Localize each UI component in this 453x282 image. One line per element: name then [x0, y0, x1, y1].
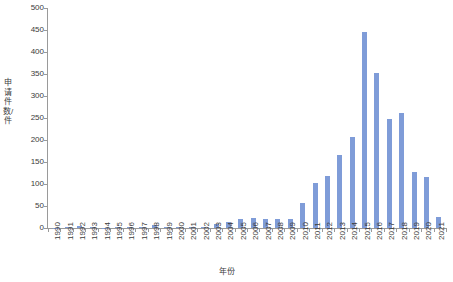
- bar[interactable]: [337, 155, 342, 228]
- x-label-slot: 1994: [98, 230, 110, 266]
- x-label-slot: 2000: [172, 230, 184, 266]
- x-label-slot: 2012: [320, 230, 332, 266]
- y-tick-label: 450: [14, 26, 44, 34]
- bar-slot: [49, 8, 61, 228]
- bar[interactable]: [399, 113, 404, 228]
- bar-slot: [160, 8, 172, 228]
- bar-slot: [272, 8, 284, 228]
- x-label-slot: 2014: [345, 230, 357, 266]
- y-tick-label: 300: [14, 92, 44, 100]
- x-label-slot: 1997: [135, 230, 147, 266]
- bar[interactable]: [313, 183, 318, 228]
- x-axis-title: 年份: [0, 265, 453, 276]
- bar-slot: [284, 8, 296, 228]
- y-axis-tick-mark: [44, 162, 48, 163]
- x-axis-tick-mark: [446, 228, 447, 232]
- bar-slot: [309, 8, 321, 228]
- x-label-slot: 1999: [159, 230, 171, 266]
- x-label-slot: 2004: [221, 230, 233, 266]
- bar-slot: [396, 8, 408, 228]
- y-tick-label: 100: [14, 180, 44, 188]
- bar-slot: [86, 8, 98, 228]
- x-label-slot: 2021: [432, 230, 444, 266]
- bar-slot: [334, 8, 346, 228]
- y-tick-label: 150: [14, 158, 44, 166]
- x-label-slot: 2006: [246, 230, 258, 266]
- bar[interactable]: [350, 137, 355, 228]
- y-tick-label: 0: [14, 224, 44, 232]
- bar-slot: [185, 8, 197, 228]
- x-label-slot: 2005: [234, 230, 246, 266]
- y-axis-tick-mark: [44, 52, 48, 53]
- x-label-slot: 2011: [308, 230, 320, 266]
- y-tick-label: 200: [14, 136, 44, 144]
- bar-slot: [321, 8, 333, 228]
- x-label-slot: 2015: [357, 230, 369, 266]
- y-axis-tick-labels: 050100150200250300350400450500: [14, 0, 44, 236]
- bar-slot: [61, 8, 73, 228]
- bar-slot: [371, 8, 383, 228]
- y-axis-tick-mark: [44, 206, 48, 207]
- bar-slot: [235, 8, 247, 228]
- y-axis-tick-mark: [44, 30, 48, 31]
- y-axis-tick-mark: [44, 118, 48, 119]
- x-label-slot: 2010: [296, 230, 308, 266]
- bar[interactable]: [362, 32, 367, 228]
- bar-slot: [297, 8, 309, 228]
- y-axis-tick-mark: [44, 184, 48, 185]
- bar-slot: [259, 8, 271, 228]
- bar[interactable]: [412, 172, 417, 228]
- bar[interactable]: [374, 73, 379, 228]
- x-label-slot: 1991: [60, 230, 72, 266]
- x-label-slot: 1992: [73, 230, 85, 266]
- bar-slot: [222, 8, 234, 228]
- x-label-slot: 2017: [382, 230, 394, 266]
- bar-slot: [173, 8, 185, 228]
- bar[interactable]: [424, 177, 429, 228]
- y-axis-tick-mark: [44, 140, 48, 141]
- bar-slot: [210, 8, 222, 228]
- x-label-slot: 2002: [197, 230, 209, 266]
- y-tick-label: 50: [14, 202, 44, 210]
- bar-slot: [247, 8, 259, 228]
- bar-slot: [198, 8, 210, 228]
- x-label-slot: 1990: [48, 230, 60, 266]
- bar-chart: 申请件数/件 050100150200250300350400450500 19…: [0, 0, 453, 282]
- bar-slot: [74, 8, 86, 228]
- x-label-slot: 1993: [85, 230, 97, 266]
- x-tick-label: 2021: [438, 222, 446, 240]
- y-axis-tick-mark: [44, 8, 48, 9]
- plot-area: [47, 8, 446, 229]
- bar-slot: [408, 8, 420, 228]
- x-label-slot: 2009: [283, 230, 295, 266]
- bar[interactable]: [387, 119, 392, 228]
- x-label-slot: 1996: [122, 230, 134, 266]
- bar-series: [48, 8, 446, 228]
- x-label-slot: 2001: [184, 230, 196, 266]
- x-label-slot: 2013: [333, 230, 345, 266]
- y-tick-label: 350: [14, 70, 44, 78]
- bar-slot: [136, 8, 148, 228]
- y-tick-label: 500: [14, 4, 44, 12]
- x-label-slot: 2016: [370, 230, 382, 266]
- bar-slot: [433, 8, 445, 228]
- bar-slot: [346, 8, 358, 228]
- y-axis-tick-mark: [44, 96, 48, 97]
- x-axis-tick-labels: 1990199119921993199419951996199719981999…: [47, 230, 445, 266]
- bar-slot: [111, 8, 123, 228]
- x-label-slot: 2008: [271, 230, 283, 266]
- bar-slot: [99, 8, 111, 228]
- y-tick-label: 250: [14, 114, 44, 122]
- bar-slot: [148, 8, 160, 228]
- bar[interactable]: [325, 176, 330, 228]
- x-label-slot: 2018: [395, 230, 407, 266]
- bar-slot: [420, 8, 432, 228]
- x-label-slot: 1998: [147, 230, 159, 266]
- y-axis-title: 申请件数/件: [2, 78, 14, 126]
- y-tick-label: 400: [14, 48, 44, 56]
- bar-slot: [123, 8, 135, 228]
- x-label-slot: 2003: [209, 230, 221, 266]
- bar-slot: [358, 8, 370, 228]
- bar-slot: [383, 8, 395, 228]
- x-label-slot: 2007: [258, 230, 270, 266]
